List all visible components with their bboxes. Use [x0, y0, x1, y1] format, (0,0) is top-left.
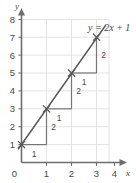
- grid-lines: [22, 20, 110, 163]
- tick-labels: 1 2 3 4 5 6 7 8 0 1 2 3 4: [10, 14, 117, 179]
- step-labels: 1 2 1 2 1 2: [32, 50, 107, 158]
- y-axis-arrowhead: [18, 8, 25, 16]
- step-rise-label-3: 2: [101, 50, 106, 60]
- x-tick-label-1: 1: [44, 168, 49, 179]
- y-tick-label-1: 1: [10, 139, 15, 150]
- y-tick-label-3: 3: [10, 103, 15, 114]
- x-tick-label-3: 3: [94, 168, 99, 179]
- y-tick-label-8: 8: [10, 14, 15, 25]
- step-rise-label-2: 2: [76, 86, 81, 96]
- step-rise-label-1: 2: [51, 122, 56, 132]
- y-tick-label-2: 2: [10, 121, 15, 132]
- step-run-label-3: 1: [82, 77, 87, 87]
- x-axis-name: x: [125, 168, 130, 178]
- function-line-y-equals-2x-plus-1: [19, 26, 106, 149]
- y-tick-label-7: 7: [10, 32, 15, 43]
- y-tick-label-6: 6: [10, 50, 15, 61]
- y-tick-label-5: 5: [10, 67, 15, 78]
- x-tick-label-2: 2: [69, 168, 74, 179]
- origin-label: 0: [12, 168, 17, 179]
- step-run-label-2: 1: [57, 113, 62, 123]
- y-axis-name: y: [14, 1, 19, 11]
- graph-canvas: 1 2 3 4 5 6 7 8 0 1 2 3 4 y x: [0, 0, 136, 183]
- x-axis-arrowhead: [120, 159, 128, 166]
- linear-function-graph: 1 2 3 4 5 6 7 8 0 1 2 3 4 y x: [0, 0, 136, 183]
- x-tick-label-4: 4: [112, 168, 117, 179]
- step-run-label-1: 1: [32, 149, 37, 159]
- y-tick-label-4: 4: [10, 85, 15, 96]
- equation-label: y = 2x + 1: [87, 22, 130, 33]
